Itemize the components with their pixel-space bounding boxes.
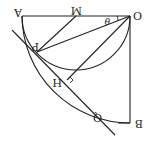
segment-MP	[37, 16, 76, 52]
label-M: M	[71, 4, 82, 17]
label-P: P	[31, 40, 39, 53]
geometry-diagram: O A M B P H Q θ	[0, 0, 147, 142]
label-Q: Q	[93, 111, 102, 124]
right-angle-marker	[70, 77, 73, 83]
label-theta: θ	[104, 16, 110, 26]
segment-OH	[67, 16, 130, 80]
segment-OP	[37, 16, 130, 52]
label-A: A	[13, 6, 23, 19]
label-O: O	[133, 10, 142, 23]
label-H: H	[52, 76, 62, 89]
label-B: B	[135, 117, 143, 130]
